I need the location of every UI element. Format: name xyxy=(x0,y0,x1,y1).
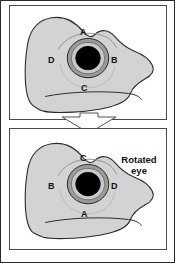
label-bottom-panel-d: D xyxy=(111,182,118,191)
rotated-eye-caption-line2: eye xyxy=(116,165,162,176)
panel-normal-eye xyxy=(9,5,167,120)
label-bottom-panel-c: C xyxy=(80,154,87,163)
label-top-panel-d: D xyxy=(48,56,55,65)
label-top-panel-c: C xyxy=(81,84,88,93)
rotated-eye-caption: Rotated eye xyxy=(116,154,162,176)
eye-rotation-figure: A B C D C D A B Rotated eye xyxy=(0,0,175,263)
eye-pupil xyxy=(76,172,101,196)
rotated-eye-caption-line1: Rotated xyxy=(116,154,162,165)
label-bottom-panel-a: A xyxy=(81,210,88,219)
eye-pupil xyxy=(76,46,101,70)
lizard-head-normal-illustration xyxy=(10,6,166,119)
label-top-panel-a: A xyxy=(80,28,87,37)
label-top-panel-b: B xyxy=(111,56,118,65)
label-bottom-panel-b: B xyxy=(48,182,55,191)
panel-rotated-eye xyxy=(9,128,167,250)
lizard-head-rotated-illustration xyxy=(10,129,166,249)
